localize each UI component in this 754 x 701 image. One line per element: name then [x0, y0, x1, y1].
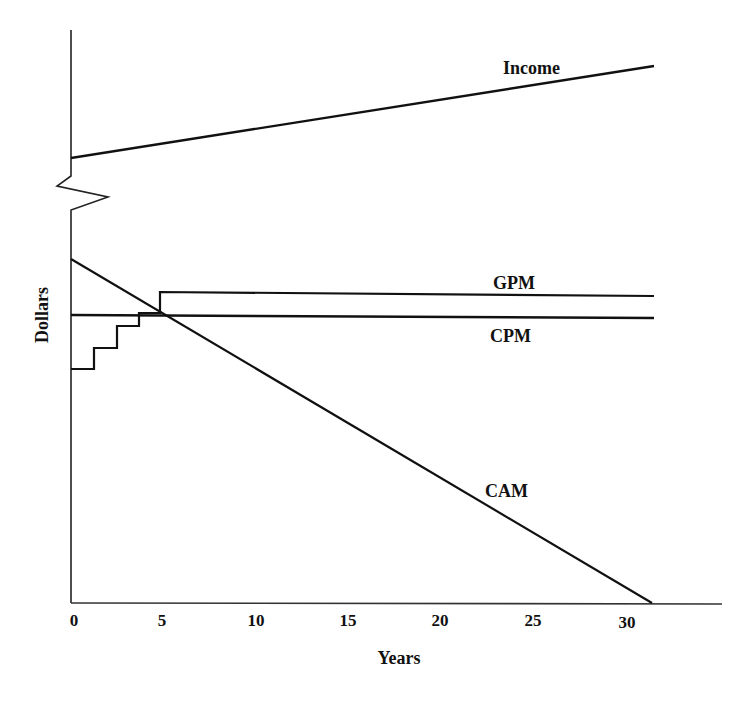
cam-line	[71, 259, 652, 603]
cpm-line	[71, 315, 654, 318]
x-tick-20: 20	[432, 611, 449, 630]
cam-label: CAM	[485, 481, 528, 501]
x-tick-10: 10	[248, 611, 265, 630]
y-axis-title: Dollars	[32, 287, 52, 343]
x-tick-15: 15	[340, 611, 357, 630]
x-tick-0: 0	[70, 611, 79, 630]
gpm-line	[71, 292, 654, 369]
cpm-label: CPM	[490, 326, 531, 346]
x-tick-25: 25	[525, 611, 542, 630]
income-label: Income	[503, 58, 560, 78]
x-axis-title: Years	[378, 648, 421, 668]
x-tick-30: 30	[619, 613, 636, 632]
x-axis	[71, 603, 722, 604]
y-axis	[57, 30, 108, 603]
mortgage-payment-chart: Income GPM CPM CAM 0 5 10 15 20 25 30 Ye…	[0, 0, 754, 701]
x-tick-5: 5	[158, 611, 167, 630]
gpm-label: GPM	[493, 273, 535, 293]
income-line	[71, 66, 654, 158]
